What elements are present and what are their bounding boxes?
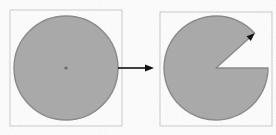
transition-arrow [118,65,154,72]
disc-center-dot [64,66,67,69]
right-panel [160,12,272,126]
transition-arrow-head [145,65,154,72]
sector-removed-disc-shape [164,16,268,120]
figure-root [0,0,276,135]
diagram-canvas [0,0,276,135]
left-panel [10,10,122,126]
